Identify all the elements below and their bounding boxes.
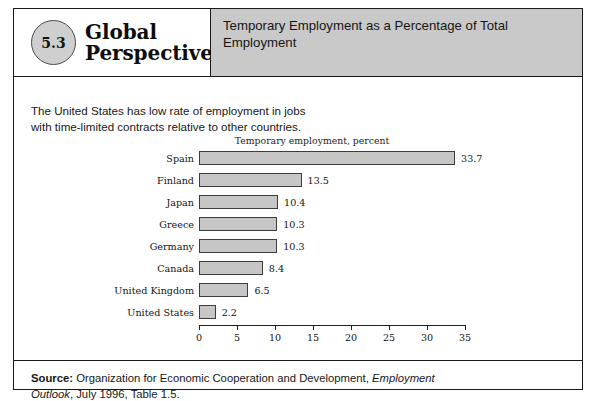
source-text-part-2: , July 1996, Table 1.5. (70, 388, 180, 400)
bar-value-label: 13.5 (308, 175, 329, 186)
bar-row: Germany10.3 (14, 237, 582, 259)
source-text-part-1: Organization for Economic Cooperation an… (73, 372, 372, 384)
chapter-number-badge: 5.3 (31, 20, 76, 65)
bar-chart: Temporary employment, percent Spain33.7F… (14, 135, 582, 350)
bar-category-label: Canada (34, 263, 194, 274)
figure-body: The United States has low rate of employ… (14, 77, 582, 389)
bar (199, 239, 277, 253)
figure-header: 5.3 Global Perspective Temporary Employm… (14, 9, 582, 77)
bar-value-label: 2.2 (222, 307, 237, 318)
bar-row: United States2.2 (14, 303, 582, 325)
x-axis-tick-label: 10 (269, 332, 281, 343)
x-axis-tick-label: 30 (421, 332, 433, 343)
bar-category-label: Spain (34, 153, 194, 164)
x-axis-tick (351, 325, 352, 330)
bar (199, 217, 277, 231)
figure-brand-title: Global Perspective (85, 22, 213, 64)
bar (199, 283, 248, 297)
bar-value-label: 6.5 (254, 285, 269, 296)
chart-axis-title: Temporary employment, percent (14, 135, 582, 146)
page-title: Temporary Employment as a Percentage of … (223, 18, 570, 52)
caption-line-1: The United States has low rate of employ… (31, 103, 431, 119)
figure-title-area: Temporary Employment as a Percentage of … (211, 9, 582, 76)
brand-line-2: Perspective (85, 43, 213, 64)
bar-value-label: 8.4 (269, 263, 284, 274)
figure-caption: The United States has low rate of employ… (31, 103, 431, 136)
bar-row: United Kingdom6.5 (14, 281, 582, 303)
bar-value-label: 10.3 (283, 219, 304, 230)
x-axis-tick-label: 5 (234, 332, 240, 343)
bar-row: Greece10.3 (14, 215, 582, 237)
source-note: Source: Organization for Economic Cooper… (31, 370, 451, 401)
x-axis-tick-label: 0 (196, 332, 202, 343)
bar-category-label: Germany (34, 241, 194, 252)
x-axis-tick (465, 325, 466, 330)
bar-value-label: 10.4 (284, 197, 305, 208)
bar-value-label: 10.3 (283, 241, 304, 252)
x-axis-tick (199, 325, 200, 330)
bar-row: Japan10.4 (14, 193, 582, 215)
x-axis-tick-label: 25 (383, 332, 395, 343)
bar-category-label: Greece (34, 219, 194, 230)
x-axis-tick-label: 20 (345, 332, 357, 343)
bar-category-label: United States (34, 307, 194, 318)
bar (199, 305, 216, 319)
bar-row: Finland13.5 (14, 171, 582, 193)
bar-category-label: Finland (34, 175, 194, 186)
bar-value-label: 33.7 (461, 153, 482, 164)
bar-category-label: United Kingdom (34, 285, 194, 296)
caption-line-2: with time-limited contracts relative to … (31, 119, 431, 135)
x-axis-tick (313, 325, 314, 330)
bar (199, 261, 263, 275)
source-divider (14, 360, 582, 361)
bar (199, 195, 278, 209)
source-label: Source: (31, 372, 73, 384)
x-axis-tick-label: 15 (307, 332, 319, 343)
chart-plot-area: Spain33.7Finland13.5Japan10.4Greece10.3G… (14, 149, 582, 349)
x-axis-tick (275, 325, 276, 330)
x-axis-line (199, 325, 465, 326)
x-axis-tick (389, 325, 390, 330)
x-axis-tick (237, 325, 238, 330)
x-axis-tick-label: 35 (459, 332, 471, 343)
figure-badge-area: 5.3 Global Perspective (14, 9, 211, 76)
x-axis-tick (427, 325, 428, 330)
bar (199, 173, 302, 187)
brand-line-1: Global (85, 22, 213, 43)
bar (199, 151, 455, 165)
figure-frame: 5.3 Global Perspective Temporary Employm… (13, 8, 583, 390)
bar-category-label: Japan (34, 197, 194, 208)
bar-row: Canada8.4 (14, 259, 582, 281)
bar-row: Spain33.7 (14, 149, 582, 171)
